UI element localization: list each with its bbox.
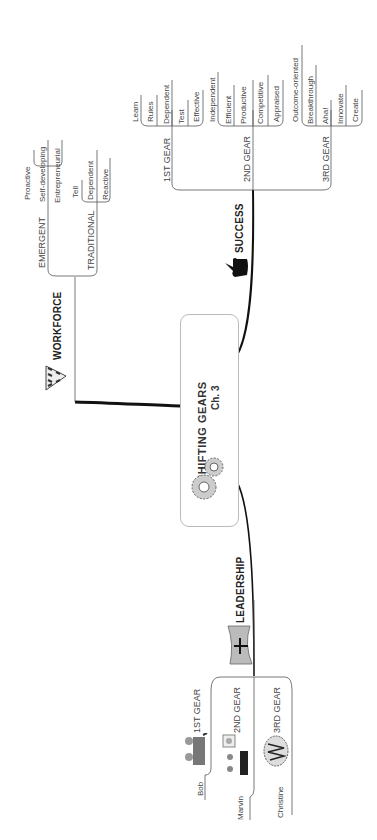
meeting-people-icon (183, 733, 209, 769)
success-2nd-gear[interactable]: 2ND GEAR (243, 136, 252, 182)
success-1st-gear[interactable]: 1ST GEAR (163, 138, 172, 182)
branch-workforce-label[interactable]: WORKFORCE (53, 292, 63, 360)
leaf-productive[interactable]: Productive (240, 86, 248, 124)
leaf-self-developing[interactable]: Self-developing (39, 147, 47, 202)
leaf-dependent[interactable]: Dependent (87, 161, 95, 200)
leader-christine[interactable]: Christine (277, 786, 285, 818)
leaf-proactive[interactable]: Proactive (24, 167, 32, 200)
leaf-create[interactable]: Create (352, 98, 360, 122)
leadership-2nd-gear[interactable]: 2ND GEAR (233, 687, 242, 733)
leaf-dependent-1st[interactable]: Dependent (163, 85, 171, 124)
branch-leadership-label[interactable]: LEADERSHIP (236, 557, 246, 623)
leaf-reactive[interactable]: Reactive (102, 169, 110, 200)
leaf-independent[interactable]: Independent (209, 78, 217, 123)
leaf-outcome-oriented[interactable]: Outcome-oriented (292, 58, 300, 122)
leader-bob[interactable]: Bob (197, 782, 205, 796)
leaf-competitive[interactable]: Competitive (257, 82, 265, 124)
leaf-innovate[interactable]: Innovate (337, 93, 345, 124)
hands-triangle-icon (42, 362, 70, 394)
central-subtitle: Ch. 3 (211, 386, 221, 410)
leaf-appraised[interactable]: Appraised (273, 86, 281, 122)
leaf-breakthrough[interactable]: Breakthrough (307, 76, 315, 124)
leaf-effective[interactable]: Effective (193, 91, 201, 122)
branch-success-label[interactable]: SUCCESS (235, 203, 245, 253)
leaf-test[interactable]: Test (178, 109, 186, 124)
leaf-entrepreneurial[interactable]: Entrepreneurial (54, 148, 62, 203)
leaf-learn[interactable]: Learn (132, 102, 140, 122)
presentation-people-icon (220, 733, 252, 777)
leadership-3rd-gear[interactable]: 3RD GEAR (273, 687, 282, 733)
success-3rd-gear[interactable]: 3RD GEAR (322, 136, 331, 182)
leader-marvin[interactable]: Marvin (237, 796, 245, 820)
leadership-1st-gear[interactable]: 1ST GEAR (193, 689, 202, 733)
workforce-emergent[interactable]: EMERGENT (38, 217, 47, 268)
leader-podium-icon (226, 624, 254, 666)
leaf-aha[interactable]: Aha! (322, 108, 330, 124)
workforce-traditional[interactable]: TRADITIONAL (87, 210, 96, 270)
leaf-efficient[interactable]: Efficient (225, 96, 233, 124)
gears-icon (190, 455, 226, 505)
thumbs-up-icon (223, 255, 251, 281)
leaf-rules[interactable]: Rules (147, 102, 155, 122)
brainstorm-cloud-icon (262, 734, 290, 768)
leaf-tell[interactable]: Tell (72, 186, 80, 198)
